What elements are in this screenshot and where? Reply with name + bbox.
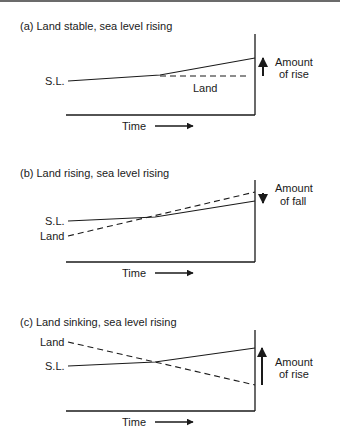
panel-c-land-line (68, 342, 255, 385)
panel-b-change-label-1: Amount (275, 182, 313, 194)
panel-a: (a) Land stable, sea level rising S.L. L… (20, 20, 313, 132)
panel-c-land-label: Land (40, 336, 64, 348)
relative-sea-level-diagram: (a) Land stable, sea level rising S.L. L… (0, 0, 340, 440)
panel-b: (b) Land rising, sea level rising S.L. L… (20, 167, 313, 279)
panel-a-sl-label: S.L. (45, 75, 65, 87)
panel-b-change-label-2: of fall (280, 195, 306, 207)
panel-c-sl-label: S.L. (45, 360, 65, 372)
panel-a-change-label-1: Amount (275, 56, 313, 68)
panel-b-sl-label: S.L. (45, 215, 65, 227)
panel-b-land-line (68, 192, 255, 236)
panel-b-time-label: Time (122, 267, 146, 279)
panel-c: (c) Land sinking, sea level rising Land … (20, 316, 313, 428)
panel-c-time-label: Time (122, 416, 146, 428)
panel-b-title: (b) Land rising, sea level rising (20, 167, 169, 179)
panel-c-change-label-2: of rise (279, 368, 309, 380)
panel-c-change-label-1: Amount (275, 356, 313, 368)
panel-a-land-label: Land (193, 82, 217, 94)
panel-a-change-label-2: of rise (279, 68, 309, 80)
panel-c-title: (c) Land sinking, sea level rising (20, 316, 177, 328)
panel-a-time-label: Time (122, 120, 146, 132)
panel-a-sea-level-line (68, 58, 255, 81)
panel-b-sea-level-line (68, 201, 255, 221)
panel-a-title: (a) Land stable, sea level rising (20, 20, 172, 32)
panel-b-land-label: Land (40, 230, 64, 242)
